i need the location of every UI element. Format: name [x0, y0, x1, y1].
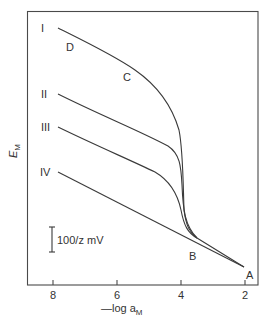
curve-label-I: I — [41, 22, 44, 34]
y-axis-label: EM — [7, 144, 22, 158]
x-axis-label-main: —log a — [101, 302, 137, 314]
point-label-B: B — [189, 250, 196, 262]
scale-bar — [49, 227, 55, 252]
curve-II — [58, 94, 197, 238]
point-label-D: D — [66, 41, 74, 53]
curve-IV — [58, 172, 244, 267]
scale-bar-label: 100/z mV — [57, 234, 104, 246]
potential-vs-activity-diagram: 8 6 4 2 —log aM EM I II III IV D C B A 1… — [0, 0, 268, 322]
curve-label-II: II — [41, 88, 47, 100]
y-axis-label-sub: M — [13, 144, 22, 151]
x-tick-8: 8 — [50, 289, 56, 301]
x-axis-label: —log aM — [101, 302, 143, 317]
curve-label-IV: IV — [40, 166, 51, 178]
x-axis-ticks — [53, 280, 245, 285]
x-tick-6: 6 — [114, 289, 120, 301]
curve-I — [58, 28, 244, 267]
x-axis-label-sub: M — [136, 308, 143, 317]
x-tick-2: 2 — [242, 289, 248, 301]
curve-label-III: III — [41, 121, 50, 133]
x-tick-4: 4 — [178, 289, 184, 301]
point-label-C: C — [123, 71, 131, 83]
point-label-A: A — [246, 269, 254, 281]
